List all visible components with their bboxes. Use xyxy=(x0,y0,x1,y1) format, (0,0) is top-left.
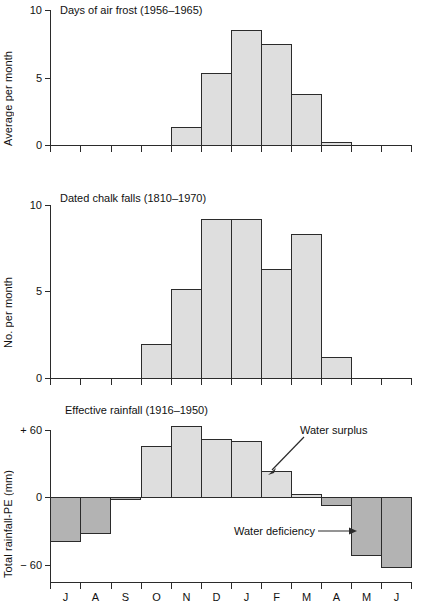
x-axis-month-label-0: J xyxy=(50,591,81,603)
x-tick-chart3-8 xyxy=(291,583,292,589)
x-tick-chart3-5 xyxy=(201,583,202,589)
x-axis-month-label-3: O xyxy=(141,591,172,603)
x-axis-month-label-7: F xyxy=(261,591,292,603)
x-axis-chart3-left-cap xyxy=(50,574,51,583)
x-axis-month-label-4: N xyxy=(171,591,202,603)
bar-chart3-M1 xyxy=(291,494,322,498)
x-tick-chart3-9 xyxy=(321,583,322,589)
y-tick-label-minus60-chart3: − 60 xyxy=(8,559,42,571)
x-tick-chart3-0 xyxy=(50,583,51,589)
x-axis-month-label-5: D xyxy=(201,591,232,603)
bar-chart3-A2 xyxy=(321,497,352,506)
x-tick-chart3-10 xyxy=(351,583,352,589)
y-tick-plus60-chart3 xyxy=(45,430,50,431)
bar-chart3-D xyxy=(201,439,232,498)
x-tick-chart3-7 xyxy=(261,583,262,589)
x-axis-month-label-1: A xyxy=(80,591,111,603)
x-axis-month-label-9: A xyxy=(321,591,352,603)
x-tick-chart3-11 xyxy=(381,583,382,589)
bar-chart3-A1 xyxy=(80,497,111,534)
x-tick-chart3-2 xyxy=(111,583,112,589)
water-surplus-arrow xyxy=(258,432,378,487)
bar-chart3-J1 xyxy=(50,497,81,542)
y-tick-label-zero-chart3: 0 xyxy=(8,491,42,503)
bar-chart3-N xyxy=(171,426,202,498)
chart-panel-effective-rainfall: Total rainfall-PE (mm) Effective rainfal… xyxy=(0,0,421,615)
x-tick-chart3-12 xyxy=(411,583,412,589)
water-deficiency-arrow xyxy=(316,524,421,546)
y-tick-minus60-chart3 xyxy=(45,565,50,566)
x-axis-month-label-6: J xyxy=(231,591,262,603)
x-axis-month-label-8: M xyxy=(291,591,322,603)
annotation-water-deficiency: Water deficiency xyxy=(234,525,315,537)
y-tick-label-plus60-chart3: + 60 xyxy=(8,424,42,436)
bar-chart3-S xyxy=(110,497,141,500)
x-tick-chart3-6 xyxy=(231,583,232,589)
bar-chart3-O xyxy=(141,446,172,498)
x-axis-month-label-2: S xyxy=(110,591,141,603)
x-axis-month-label-11: J xyxy=(381,591,412,603)
y-axis-label-chart3: Total rainfall-PE (mm) xyxy=(2,438,14,578)
x-tick-chart3-1 xyxy=(80,583,81,589)
x-tick-chart3-4 xyxy=(171,583,172,589)
chart-title-effective-rainfall: Effective rainfall (1916–1950) xyxy=(65,404,208,416)
x-tick-chart3-3 xyxy=(141,583,142,589)
x-axis-month-label-10: M xyxy=(351,591,382,603)
